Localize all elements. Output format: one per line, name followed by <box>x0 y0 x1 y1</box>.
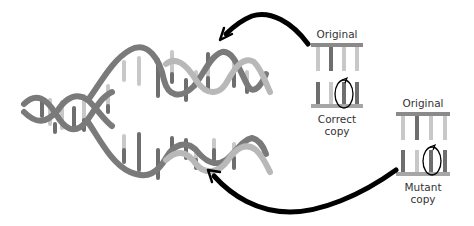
mutant-copy-label-line2: copy <box>397 193 449 205</box>
correct-copy-panel <box>311 43 363 108</box>
parent-helix <box>24 86 112 132</box>
lower-daughter-helix <box>88 122 270 178</box>
correct-original-label: Original <box>312 28 362 40</box>
arrows <box>208 14 396 212</box>
mutant-copy-label-line1: Mutant <box>397 181 449 193</box>
correct-copy-label-line2: copy <box>312 125 362 137</box>
mutant-original-backbone <box>396 112 450 116</box>
correct-original-backbone <box>311 43 363 47</box>
arrow-correct-to-upper-helix <box>226 14 308 44</box>
mutant-copy-panel <box>396 112 450 176</box>
mutant-copy-backbone <box>396 172 450 176</box>
correct-copy-backbone <box>311 104 363 108</box>
upper-daughter-helix <box>88 47 270 100</box>
arrow-mutant-to-lower-helix <box>214 170 396 212</box>
lower-new-strand <box>166 146 270 172</box>
mutant-original-label: Original <box>397 97 449 109</box>
correct-copy-label-line1: Correct <box>312 113 362 125</box>
